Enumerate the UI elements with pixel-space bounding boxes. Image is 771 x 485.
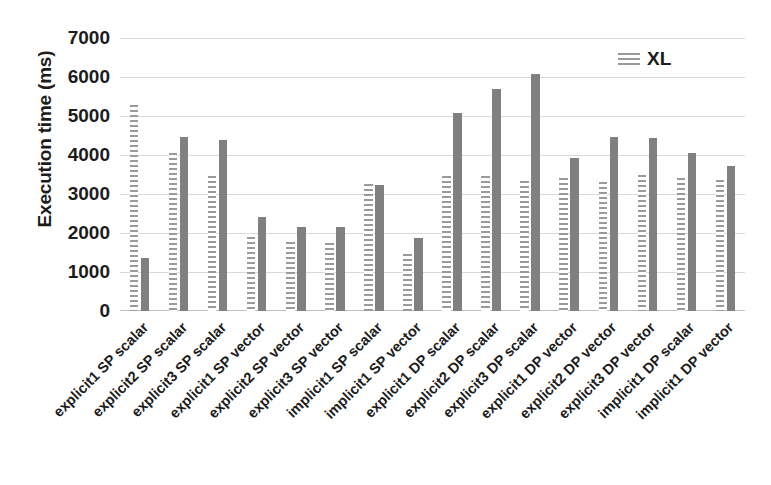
y-axis-tick-4000: 4000	[36, 144, 110, 166]
legend-label-xl: XL	[647, 48, 671, 70]
bar[interactable]	[141, 258, 150, 311]
chart-legend: XL	[618, 48, 671, 70]
y-axis-tick-6000: 6000	[36, 66, 110, 88]
bar-chart: Execution time (ms) 70006000500040003000…	[0, 0, 771, 485]
bar[interactable]	[130, 105, 139, 311]
y-axis-tick-1000: 1000	[36, 261, 110, 283]
legend-swatch-xl-icon	[618, 53, 640, 66]
y-axis-tick-5000: 5000	[36, 105, 110, 127]
y-axis-tick-7000: 7000	[36, 27, 110, 49]
y-axis-tick-0: 0	[36, 300, 110, 322]
bar-group	[120, 38, 159, 311]
y-axis-tick-2000: 2000	[36, 222, 110, 244]
y-axis-tick-3000: 3000	[36, 183, 110, 205]
x-axis-tick-labels: explicit1 SP scalarexplicit2 SP scalarex…	[120, 313, 745, 485]
